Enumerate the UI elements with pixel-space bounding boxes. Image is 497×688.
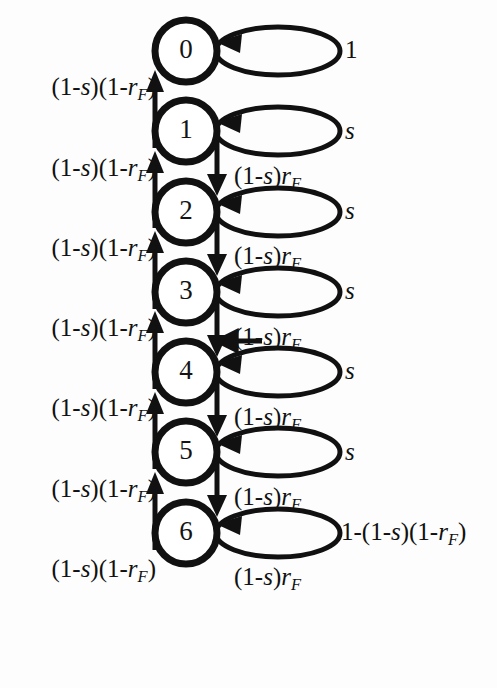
figure-canvas: 0 1 2 3 4 5 6 (1-s)(1-rF) (1-s)(1-rF) (1… xyxy=(0,0,497,688)
self-loop-6 xyxy=(216,509,340,557)
loop-label-0: 1 xyxy=(345,37,358,62)
edge-label-down-1-to-2: (1-s)rF xyxy=(234,163,301,192)
state-label-2: 2 xyxy=(179,195,193,225)
edge-label-down-4-to-5: (1-s)rF xyxy=(234,404,301,433)
edge-label-down-3-to-4: (1-s)rF xyxy=(234,324,301,353)
edge-label-down-6: (1-s)rF xyxy=(234,564,301,593)
edge-label-up-3-to-2: (1-s)(1-rF) xyxy=(51,235,156,264)
edge-label-up-6-to-5: (1-s)(1-rF) xyxy=(51,476,156,505)
loop-label-4: s xyxy=(345,358,355,383)
edge-label-up-1-to-0: (1-s)(1-rF) xyxy=(51,74,156,103)
self-loop-3 xyxy=(216,268,340,316)
edge-label-down-2-to-3: (1-s)rF xyxy=(234,243,301,272)
loop-label-1: s xyxy=(345,118,355,143)
state-label-5: 5 xyxy=(179,435,193,465)
loop-label-3: s xyxy=(345,278,355,303)
state-label-0: 0 xyxy=(179,34,193,64)
self-loop-0 xyxy=(216,27,340,75)
self-loops xyxy=(216,27,340,557)
self-loop-5 xyxy=(216,428,340,476)
edge-label-up-4-to-3: (1-s)(1-rF) xyxy=(51,315,156,344)
loop-label-2: s xyxy=(345,198,355,223)
self-loop-4 xyxy=(216,348,340,396)
edge-label-up-6-bottom: (1-s)(1-rF) xyxy=(51,556,156,585)
state-label-3: 3 xyxy=(179,275,193,305)
state-label-1: 1 xyxy=(179,114,193,144)
loop-label-6: 1-(1-s)(1-rF) xyxy=(341,519,466,548)
self-loop-2 xyxy=(216,188,340,236)
state-label-4: 4 xyxy=(179,355,193,385)
self-loop-1 xyxy=(216,107,340,155)
edge-label-down-5-to-6: (1-s)rF xyxy=(234,484,301,513)
edge-label-up-2-to-1: (1-s)(1-rF) xyxy=(51,155,156,184)
loop-label-5: s xyxy=(345,439,355,464)
edge-label-up-5-to-4: (1-s)(1-rF) xyxy=(51,395,156,424)
state-label-6: 6 xyxy=(179,516,193,546)
